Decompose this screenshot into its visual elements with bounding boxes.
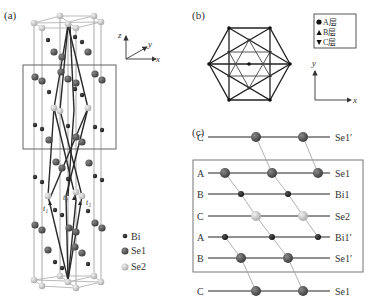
t1-label: t₁ bbox=[43, 204, 48, 213]
bond-line bbox=[303, 137, 318, 173]
stack-letter: B bbox=[197, 253, 204, 264]
layer-row: CSe1′ bbox=[197, 132, 352, 143]
bi-atom bbox=[315, 234, 321, 240]
b-layer-legend-label: B层 bbox=[323, 28, 336, 37]
c-layer-points bbox=[227, 51, 272, 90]
layer-row: ASe1 bbox=[197, 168, 350, 179]
se1-atom bbox=[283, 253, 293, 263]
atom-label: Se1′ bbox=[335, 253, 352, 264]
x-axis-label: x bbox=[155, 54, 160, 64]
se2-legend-marker bbox=[122, 264, 129, 271]
a-layer-legend-label: A层 bbox=[323, 18, 337, 27]
se1-atom bbox=[251, 286, 261, 296]
stack-letter: C bbox=[197, 286, 204, 297]
bi-atom bbox=[238, 191, 244, 197]
bi-atom bbox=[222, 234, 228, 240]
bi-atom bbox=[269, 234, 275, 240]
se2-atom bbox=[251, 211, 261, 221]
se2-legend-label: Se2 bbox=[131, 261, 146, 272]
bond-line bbox=[256, 137, 272, 173]
stack-letter: C bbox=[197, 132, 204, 143]
se1-atom bbox=[313, 168, 323, 178]
layer-row: CSe2 bbox=[197, 211, 350, 222]
se1-atom bbox=[298, 286, 308, 296]
atom-label: Se1′ bbox=[335, 132, 352, 143]
panel-a-label: (a) bbox=[4, 9, 17, 22]
bi-legend-label: Bi bbox=[131, 231, 141, 242]
y-axis-arrow bbox=[126, 47, 147, 59]
se2-atom bbox=[298, 211, 308, 221]
layer-row: ABi1′ bbox=[197, 232, 352, 243]
atom-label: Se1 bbox=[335, 168, 350, 179]
layer-row: CSe1 bbox=[197, 286, 350, 297]
panel-a: (a) bbox=[4, 9, 160, 291]
bond-line bbox=[288, 258, 303, 291]
atom-label: Bi1 bbox=[335, 189, 349, 200]
y-axis-label: y bbox=[147, 39, 152, 49]
bond-line bbox=[241, 258, 256, 291]
panel-b: (b) A层 B层 C层 bbox=[192, 9, 357, 105]
stack-letter: A bbox=[197, 168, 205, 179]
xy-axes bbox=[315, 71, 351, 100]
stack-letter: C bbox=[197, 211, 204, 222]
panel-b-label: (b) bbox=[192, 9, 205, 22]
b-layer-points bbox=[227, 38, 272, 77]
se1-atom bbox=[298, 132, 308, 142]
t3-label: t₃ bbox=[86, 198, 91, 207]
layer-row: BBi1 bbox=[197, 189, 349, 200]
atom-label: Bi1′ bbox=[335, 232, 352, 243]
atom-label: Se1 bbox=[335, 286, 350, 297]
c-layer-legend-label: C层 bbox=[323, 38, 336, 47]
t2-label: t₂ bbox=[63, 193, 68, 202]
stack-letter: A bbox=[197, 232, 205, 243]
bi-legend-marker bbox=[123, 234, 128, 239]
atom-label: Se2 bbox=[335, 211, 350, 222]
se1-atom bbox=[236, 253, 246, 263]
panel-c: (c) CSe1′ASe1BBi1CSe2ABi1′BSe1′CSe1 bbox=[192, 126, 363, 297]
figure-canvas: (a) bbox=[0, 0, 375, 307]
se1-atom bbox=[220, 168, 230, 178]
b-y-axis-label: y bbox=[311, 58, 316, 68]
a-layer-legend-marker bbox=[316, 19, 321, 24]
se1-legend-marker bbox=[122, 248, 129, 255]
z-axis-label: z bbox=[117, 30, 122, 40]
layer-row: BSe1′ bbox=[197, 253, 352, 264]
se1-legend-label: Se1 bbox=[131, 245, 146, 256]
stack-letter: B bbox=[197, 189, 204, 200]
se1-atom bbox=[267, 168, 277, 178]
atom-legend: Bi Se1 Se2 bbox=[122, 231, 147, 272]
b-x-axis-label: x bbox=[352, 95, 357, 105]
se1-atom bbox=[251, 132, 261, 142]
bi-atom bbox=[285, 191, 291, 197]
